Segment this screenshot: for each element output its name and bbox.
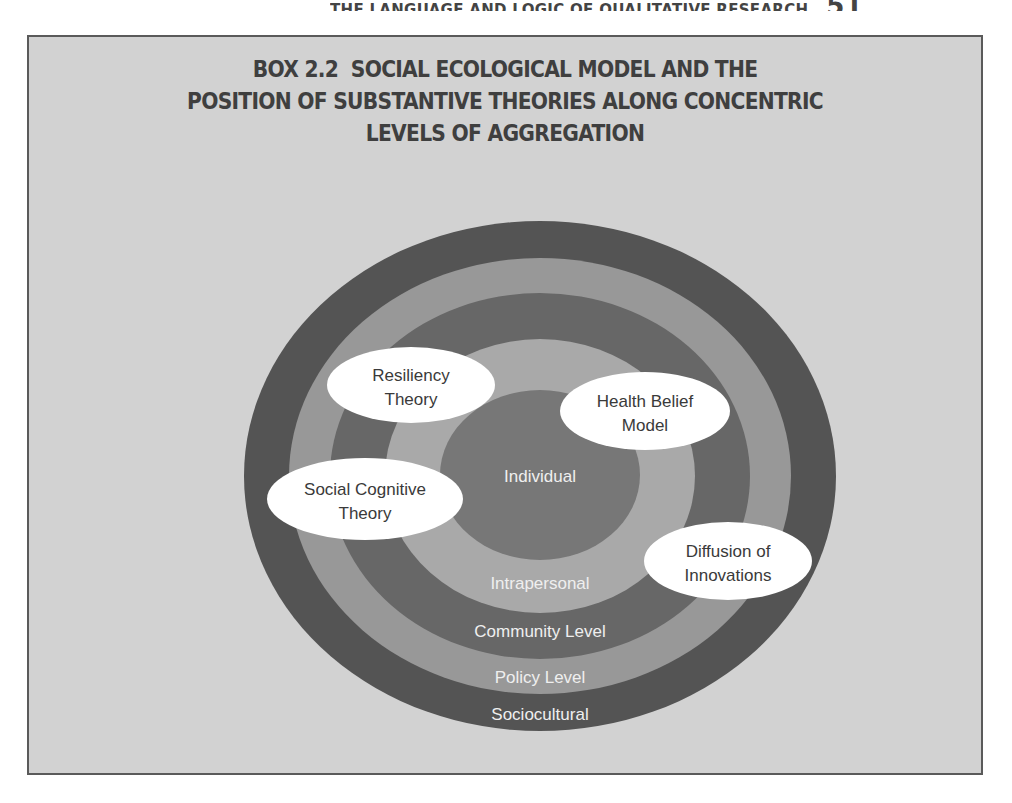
theory-resiliency-line-1: Resiliency [372,366,450,385]
theory-resiliency: Resiliency Theory [327,347,495,423]
label-policy-level: Policy Level [495,668,586,687]
theory-health-belief-line-1: Health Belief [597,392,694,411]
label-sociocultural: Sociocultural [491,705,588,724]
theory-social-cognitive-line-1: Social Cognitive [304,480,426,499]
social-ecological-model-diagram: Individual Intrapersonal Community Level… [0,0,1012,803]
label-intrapersonal: Intrapersonal [490,574,589,593]
theory-diffusion-line-2: Innovations [685,566,772,585]
theory-health-belief-model: Health Belief Model [560,372,730,450]
theory-social-cognitive-line-2: Theory [339,504,392,523]
theory-social-cognitive: Social Cognitive Theory [267,458,463,540]
theory-diffusion-line-1: Diffusion of [686,542,771,561]
theory-diffusion-of-innovations: Diffusion of Innovations [644,522,812,600]
label-community-level: Community Level [474,622,605,641]
theory-health-belief-line-2: Model [622,416,668,435]
theory-resiliency-line-2: Theory [385,390,438,409]
label-individual: Individual [504,467,576,486]
